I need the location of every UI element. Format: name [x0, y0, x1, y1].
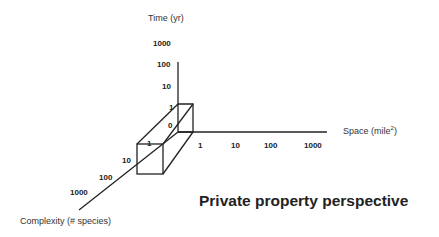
complexity-tick-1000: 1000	[70, 188, 88, 197]
origin-label: 0	[168, 121, 172, 130]
diagram-title: Private property perspective	[199, 192, 408, 210]
space-tick-1000: 1000	[304, 141, 322, 150]
space-tick-1: 1	[198, 141, 202, 150]
time-axis-label: Time (yr)	[148, 13, 184, 23]
complexity-tick-10: 10	[122, 156, 131, 165]
box-back-face	[178, 104, 193, 132]
time-tick-10: 10	[162, 82, 171, 91]
space-tick-10: 10	[231, 141, 240, 150]
complexity-axis-label: Complexity (# species)	[20, 216, 111, 226]
box-front-label: 1	[147, 139, 151, 148]
complexity-tick-100: 100	[99, 173, 112, 182]
space-axis-label: Space (mile2)	[343, 125, 397, 136]
box-front-face	[137, 144, 163, 174]
space-tick-100: 100	[264, 141, 277, 150]
time-tick-1: 1	[169, 103, 173, 112]
time-tick-100: 100	[157, 60, 170, 69]
time-tick-1000: 1000	[153, 39, 171, 48]
